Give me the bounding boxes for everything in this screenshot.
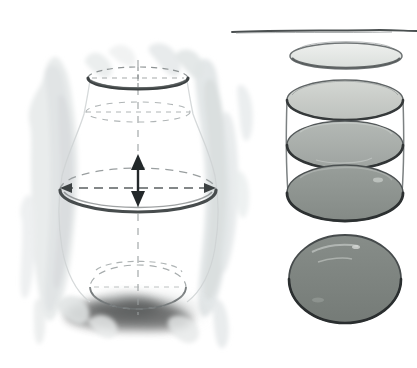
- cylinder-bottom-ellipse: [287, 165, 403, 221]
- cylinder-study-layer: [0, 0, 417, 368]
- cylinder-top-ellipse: [287, 80, 403, 120]
- horizon-line: [232, 30, 417, 33]
- artboard: Ellipse and Cylinder Perspective Study p…: [0, 0, 417, 368]
- ellipse-above-eye-level: [290, 42, 402, 69]
- lowest-ellipse: [289, 235, 401, 323]
- cylinder-middle-ellipse: [287, 121, 403, 169]
